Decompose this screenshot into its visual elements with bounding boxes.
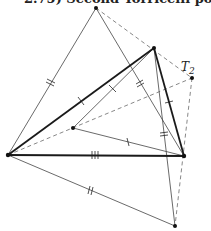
point-c — [71, 126, 75, 130]
point-t2 — [190, 76, 194, 80]
thick-triangle — [8, 48, 184, 156]
thin-lines — [8, 8, 184, 226]
dashed-a-t2 — [96, 8, 192, 78]
dashed-l-t2 — [8, 78, 192, 155]
point-r — [182, 154, 186, 158]
line-c-b — [73, 48, 154, 128]
thick-l-r — [8, 155, 184, 156]
label-t2: T2 — [181, 60, 195, 76]
point-a — [94, 6, 98, 10]
point-b — [152, 46, 156, 50]
line-b-d — [154, 48, 175, 226]
point-l — [6, 153, 10, 157]
dashed-construction-lines — [8, 8, 192, 226]
point-d — [173, 224, 177, 228]
torricelli-diagram: T2 — [0, 0, 211, 231]
line-l-d — [8, 155, 175, 226]
